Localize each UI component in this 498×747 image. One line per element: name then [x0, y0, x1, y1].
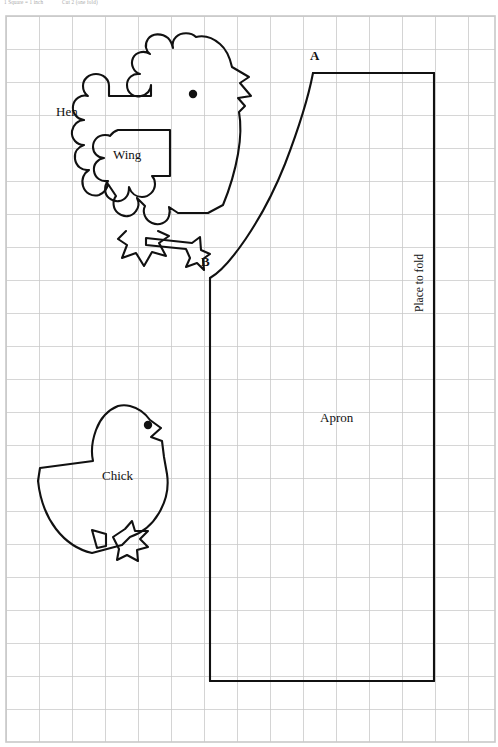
- label-point-b: B: [201, 254, 210, 270]
- label-wing: Wing: [113, 147, 141, 163]
- hen-eye-dot: [189, 90, 197, 98]
- label-point-a: A: [310, 48, 319, 64]
- pattern-page: 1 Square = 1 inch Cut 2 (one fold): [0, 0, 498, 747]
- label-apron: Apron: [320, 410, 353, 426]
- label-place-to-fold: Place to fold: [413, 254, 425, 312]
- graph-paper-grid: [6, 16, 495, 742]
- label-chick: Chick: [102, 468, 133, 484]
- chick-eye-dot: [144, 421, 152, 429]
- label-hen: Hen: [56, 104, 78, 120]
